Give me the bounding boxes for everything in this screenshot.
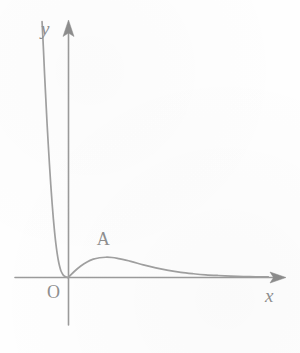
graph-figure: y x O A [0,0,300,353]
origin-label: O [47,283,60,301]
x-axis-label: x [265,286,273,305]
graph-canvas [0,0,300,353]
y-axis-label: y [41,19,49,38]
curve-path [42,22,268,278]
point-a-label: A [97,230,110,248]
